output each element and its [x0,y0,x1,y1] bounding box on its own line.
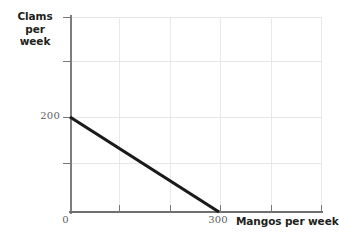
x-axis-line [69,211,323,213]
x-axis-tick [119,205,120,213]
gridline-vertical [220,17,221,212]
x-axis-tick [170,205,171,213]
x-axis-tick-300 [220,205,221,213]
y-axis-tick [63,17,71,18]
x-tick-label-0: 0 [60,214,71,225]
gridline-horizontal [70,117,322,118]
y-axis-tick-200 [63,117,71,118]
y-axis-title-line2: week [6,35,64,48]
gridline-horizontal [70,17,322,18]
x-axis-tick [271,205,272,213]
x-axis-title: Mangos per week [236,215,339,228]
x-tick-label-300: 300 [206,214,230,225]
gridline-horizontal [70,61,322,62]
y-axis-tick [63,163,71,164]
y-axis-line [70,15,72,214]
gridline-vertical [170,17,171,212]
gridline-horizontal [70,163,322,164]
gridline-vertical [271,17,272,212]
gridline-vertical [321,17,322,212]
y-axis-tick [63,61,71,62]
y-axis-title-line1: Clams per [6,10,64,35]
y-tick-label-200: 200 [40,110,60,121]
gridline-vertical [119,17,120,212]
x-axis-tick [321,205,322,213]
y-axis-title: Clams per week [6,10,64,48]
